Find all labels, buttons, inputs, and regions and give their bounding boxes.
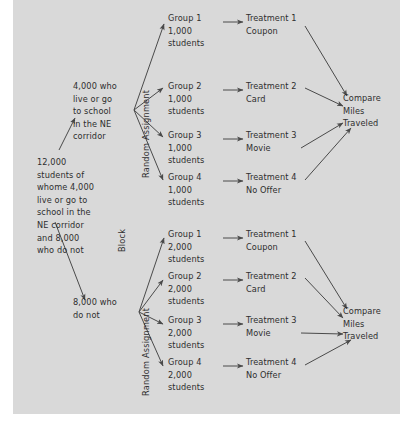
bottom-group-1-node: Group 1 2,000 students [168, 228, 230, 266]
bottom-treatment-1-node: Treatment 1 Coupon [246, 228, 318, 253]
bottom-group-2-node: Group 2 2,000 students [168, 270, 230, 308]
block-ne-corridor-node: 4,000 who live or go to school in the NE… [73, 80, 149, 143]
bottom-treatment-2-node: Treatment 2 Card [246, 270, 318, 295]
bottom-group-4-node: Group 4 2,000 students [168, 356, 230, 394]
top-group-1-node: Group 1 1,000 students [168, 12, 230, 50]
root-population-node: 12,000 students of whome 4,000 live or g… [37, 156, 123, 257]
block-non-ne-node: 8,000 who do not [73, 296, 143, 321]
bottom-group-3-node: Group 3 2,000 students [168, 314, 230, 352]
bottom-treatment-3-node: Treatment 3 Movie [246, 314, 318, 339]
stage-label-random-assignment-bottom: Random Assignment [141, 308, 151, 396]
stage-label-random-assignment-top: Random Assignment [141, 90, 151, 178]
top-treatment-3-node: Treatment 3 Movie [246, 129, 318, 154]
top-treatment-1-node: Treatment 1 Coupon [246, 12, 318, 37]
top-group-2-node: Group 2 1,000 students [168, 80, 230, 118]
diagram-panel: 12,000 students of whome 4,000 live or g… [13, 0, 400, 414]
bottom-treatment-4-node: Treatment 4 No Offer [246, 356, 318, 381]
bottom-outcome-node: Compare Miles Traveled [343, 305, 400, 343]
top-treatment-2-node: Treatment 2 Card [246, 80, 318, 105]
top-treatment-4-node: Treatment 4 No Offer [246, 171, 318, 196]
stage-label-block: Block [117, 229, 127, 252]
top-outcome-node: Compare Miles Traveled [343, 92, 400, 130]
top-group-3-node: Group 3 1,000 students [168, 129, 230, 167]
top-group-4-node: Group 4 1,000 students [168, 171, 230, 209]
